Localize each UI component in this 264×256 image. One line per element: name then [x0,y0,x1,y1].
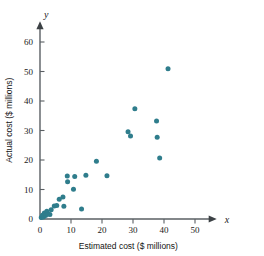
data-point [72,174,77,179]
y-tick-label: 20 [24,155,34,165]
x-axis-title: Estimated cost ($ millions) [79,241,178,251]
x-axis-arrow-icon [209,215,217,222]
y-tick-label: 50 [24,67,34,77]
x-tick-label: 30 [129,225,139,235]
data-point [60,194,65,199]
plot-canvas: 010203040500102030405060 xyEstimated cos… [0,0,264,256]
x-axis-symbol: x [224,214,230,225]
y-tick-label: 30 [24,126,34,136]
data-point [47,212,52,217]
data-point [61,204,66,209]
data-point [83,173,88,178]
tick-labels-layer: 010203040500102030405060 [24,37,200,235]
y-axis-arrow-icon [36,21,43,29]
data-point [157,155,162,160]
scatter-plot-figure: 010203040500102030405060 xyEstimated cos… [0,0,264,256]
x-tick-label: 10 [67,225,77,235]
y-tick-label: 0 [29,214,34,224]
y-tick-label: 60 [24,37,34,47]
axes-layer [36,21,216,222]
data-point [54,203,59,208]
data-point [104,173,109,178]
x-tick-label: 50 [191,225,201,235]
data-point [65,173,70,178]
axis-titles-layer: xyEstimated cost ($ millions)Actual cost… [4,9,230,251]
data-point [166,66,171,71]
y-tick-label: 40 [24,96,34,106]
x-tick-label: 40 [160,225,170,235]
y-axis-title: Actual cost ($ millions) [4,77,14,162]
data-point [71,187,76,192]
x-tick-label: 20 [98,225,108,235]
data-point [132,106,137,111]
data-point [79,206,84,211]
y-tick-label: 10 [24,185,34,195]
data-point [128,134,133,139]
data-point [154,119,159,124]
y-axis-symbol: y [43,9,49,20]
data-point [126,129,131,134]
data-point [94,159,99,164]
data-point [155,135,160,140]
x-tick-label: 0 [38,225,43,235]
data-points-layer [39,66,171,220]
data-point [65,179,70,184]
